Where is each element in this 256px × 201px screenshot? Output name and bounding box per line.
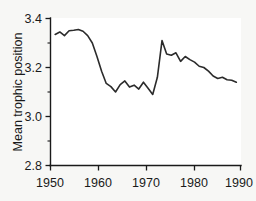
plot-area-background <box>50 18 241 165</box>
figure-container: 3.4 3.2 3.0 2.8 1950 1960 1970 1980 1990… <box>0 0 256 201</box>
y-tick-label-3: 3.4 <box>25 12 42 26</box>
x-axis-tick-labels: 1950 1960 1970 1980 1990 <box>36 176 253 190</box>
x-tick-label-2: 1970 <box>132 176 160 190</box>
x-tick-label-4: 1990 <box>225 176 253 190</box>
y-tick-label-0: 2.8 <box>25 159 42 173</box>
y-axis-tick-labels: 3.4 3.2 3.0 2.8 <box>25 12 42 173</box>
x-tick-label-0: 1950 <box>36 176 64 190</box>
x-tick-label-1: 1960 <box>84 176 112 190</box>
x-axis-major-ticks <box>51 166 241 171</box>
y-tick-label-2: 3.2 <box>25 61 42 75</box>
trophic-position-line-chart: 3.4 3.2 3.0 2.8 1950 1960 1970 1980 1990… <box>0 0 256 201</box>
x-tick-label-3: 1980 <box>180 176 208 190</box>
y-tick-label-1: 3.0 <box>25 110 42 124</box>
y-axis-label: Mean trophic position <box>11 33 25 152</box>
